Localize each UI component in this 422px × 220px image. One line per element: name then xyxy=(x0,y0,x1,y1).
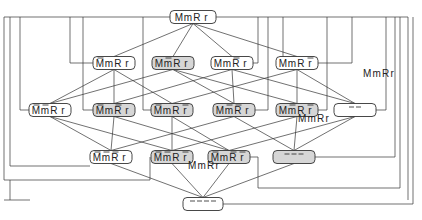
connector-line xyxy=(143,17,151,110)
lattice-edge xyxy=(193,24,297,57)
node-label-letter: R xyxy=(234,105,242,116)
lattice-edge xyxy=(50,117,172,151)
lattice-node-top: MmRr xyxy=(170,11,216,24)
node-label-letter: R xyxy=(114,105,122,116)
connector-line xyxy=(318,17,327,110)
node-label-letter: m xyxy=(288,58,298,69)
lattice-edge xyxy=(232,70,355,104)
lattice-node-n2: MmRr xyxy=(152,57,194,70)
lattice-node-n5: MmRr xyxy=(29,104,71,117)
node-label-letter: r xyxy=(61,105,66,116)
node-label-letter: R xyxy=(193,12,201,23)
lattice-node-n10 xyxy=(334,104,376,117)
lattice-node-n7: MmRr xyxy=(151,104,193,117)
node-label-letter: m xyxy=(184,12,194,23)
node-box xyxy=(183,198,223,211)
lattice-edge xyxy=(50,70,173,104)
connector-line xyxy=(20,17,29,110)
node-box xyxy=(273,151,315,164)
node-label-letter: r xyxy=(240,152,245,163)
node-label-letter: R xyxy=(114,58,122,69)
node-label-letter: m xyxy=(102,152,112,163)
connector-line xyxy=(70,17,93,63)
node-label-letter: m xyxy=(105,105,115,116)
node-label-letter: R xyxy=(297,58,305,69)
node-label-letter: R xyxy=(229,152,237,163)
lattice-edge xyxy=(114,24,193,57)
lattice-edge xyxy=(297,70,355,104)
connector-line xyxy=(4,17,170,180)
lattice-edge xyxy=(229,117,355,151)
lattice-node-n6: MmRr xyxy=(93,104,135,117)
node-label-letter: r xyxy=(184,58,189,69)
node-label-letter: m xyxy=(163,152,173,163)
connector-line xyxy=(253,17,258,63)
lattice-edge xyxy=(50,70,114,104)
lattice-edge xyxy=(294,117,297,151)
lattice-node-n1: MmRr xyxy=(93,57,135,70)
node-label-letter: R xyxy=(173,58,181,69)
node-box xyxy=(334,104,376,117)
connector-line xyxy=(250,17,400,188)
connector-line xyxy=(83,17,93,110)
node-label-letter: r xyxy=(308,58,313,69)
connector-line xyxy=(255,17,268,110)
node-label-letter: m xyxy=(225,105,235,116)
node-label-letter: m xyxy=(164,58,174,69)
lattice-edge xyxy=(172,117,297,151)
node-label-letter: R xyxy=(172,105,180,116)
lattice-edge xyxy=(173,70,234,104)
lattice-edge xyxy=(172,117,229,151)
node-label-letter: r xyxy=(243,58,248,69)
lattice-edge xyxy=(114,70,232,104)
lattice-nodes: MmRrMmRrMmRrMmRrMmRrMmRrMmRrMmRrMmRrMmRr… xyxy=(29,11,376,211)
lattice-diagram: MmRrMmRrMmRrMmRrMmRrMmRrMmRrMmRrMmRrMmRr… xyxy=(0,0,422,220)
lattice-edge xyxy=(173,24,193,57)
lattice-node-n3: MmRr xyxy=(211,57,253,70)
lattice-edge xyxy=(111,117,234,151)
connector-line xyxy=(318,17,352,63)
node-label-letter: m xyxy=(163,105,173,116)
floating-label: MmRr xyxy=(298,113,330,124)
node-label-letter: m xyxy=(41,105,51,116)
node-label-letter: R xyxy=(111,152,119,163)
node-label-letter: r xyxy=(183,105,188,116)
node-label-letter: m xyxy=(105,58,115,69)
floating-label: MmRr xyxy=(363,68,395,79)
connector-line xyxy=(376,17,386,110)
lattice-edge xyxy=(50,117,111,151)
lattice-node-n8: MmRr xyxy=(213,104,255,117)
lattice-edge xyxy=(193,24,232,57)
lattice-node-n4: MmRr xyxy=(276,57,318,70)
lattice-node-n12: MmRr xyxy=(151,151,193,164)
node-label-letter: m xyxy=(220,152,230,163)
lattice-edge xyxy=(234,117,294,151)
node-label-letter: r xyxy=(125,58,130,69)
connector-line xyxy=(10,17,90,166)
node-label-letter: r xyxy=(125,105,130,116)
node-label-letter: m xyxy=(223,58,233,69)
node-label-letter: m xyxy=(288,105,298,116)
lattice-node-n14 xyxy=(273,151,315,164)
node-label-letter: r xyxy=(204,12,209,23)
lattice-node-n11: MmRr xyxy=(90,151,132,164)
floating-label: MmRr xyxy=(188,160,220,171)
node-label-letter: r xyxy=(122,152,127,163)
lattice-node-bottom xyxy=(183,198,223,211)
node-label-letter: R xyxy=(232,58,240,69)
node-label-letter: r xyxy=(245,105,250,116)
node-label-letter: R xyxy=(172,152,180,163)
node-label-letter: R xyxy=(50,105,58,116)
